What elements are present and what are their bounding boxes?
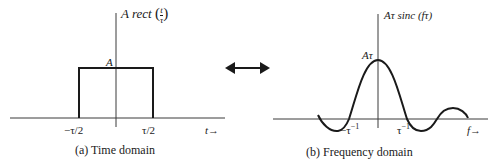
caption-frequency-domain: (b) Frequency domain [306,145,413,160]
tick-label-neg-inv-tau: −τ−1 [340,122,359,136]
amplitude-label-right: Aτ [362,49,373,61]
diagram-canvas [0,0,493,162]
amplitude-label-left: A [106,56,113,68]
time-axis-label: t→ [205,124,219,136]
sinc-curve [318,60,468,131]
caption-time-domain: (a) Time domain [75,143,155,158]
tick-label-pos-inv-tau: τ−1 [397,122,410,136]
sinc-function-label: Aτ sinc (fτ) [384,9,432,21]
tick-label-neg-half-tau: −τ/2 [64,124,83,136]
frequency-axis-label: f→ [467,124,481,136]
rect-function-label: A rect (tτ) [121,5,168,25]
double-arrow-icon [225,62,270,74]
tick-label-pos-half-tau: τ/2 [142,124,155,136]
